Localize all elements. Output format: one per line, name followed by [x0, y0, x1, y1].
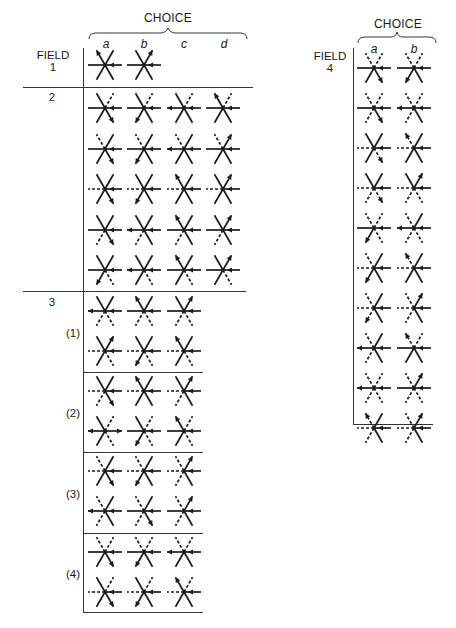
vector-glyph	[162, 369, 206, 413]
vector-glyph	[122, 489, 166, 533]
vector-glyph	[122, 167, 166, 211]
vector-glyph	[162, 530, 206, 574]
vector-glyph	[122, 329, 166, 373]
vector-glyph	[122, 43, 166, 87]
vector-glyph	[83, 489, 127, 533]
vector-glyph	[162, 86, 206, 130]
choice-title-right: CHOICE	[374, 17, 422, 31]
section-3-label: (3)	[66, 488, 80, 500]
vector-glyph	[352, 86, 396, 130]
field-header-right: FIELD 4	[305, 50, 355, 74]
field-4-label: 4	[305, 62, 355, 74]
vector-glyph	[392, 366, 436, 410]
section-1-label: (1)	[66, 327, 80, 339]
vector-glyph	[392, 86, 436, 130]
vector-glyph	[162, 167, 206, 211]
vector-glyph	[201, 167, 245, 211]
vector-glyph	[352, 46, 396, 90]
vector-glyph	[392, 126, 436, 170]
column-label-d: d	[214, 37, 234, 51]
vector-glyph	[83, 409, 127, 453]
vector-glyph	[83, 369, 127, 413]
field-2-label: 2	[40, 91, 64, 103]
vector-glyph	[83, 167, 127, 211]
vector-glyph	[162, 570, 206, 614]
vector-glyph	[392, 246, 436, 290]
vector-glyph	[122, 127, 166, 171]
vector-glyph	[122, 86, 166, 130]
vector-glyph	[83, 449, 127, 493]
vector-glyph	[201, 208, 245, 252]
field-3-label: 3	[40, 296, 64, 308]
vector-glyph	[83, 329, 127, 373]
vector-glyph	[162, 489, 206, 533]
vector-glyph	[162, 248, 206, 292]
vector-glyph	[352, 206, 396, 250]
vector-glyph	[122, 409, 166, 453]
vector-glyph	[392, 166, 436, 210]
vector-glyph	[352, 366, 396, 410]
vector-glyph	[392, 286, 436, 330]
column-label-c: c	[174, 37, 194, 51]
vector-glyph	[201, 86, 245, 130]
vector-glyph	[162, 289, 206, 333]
vector-glyph	[162, 127, 206, 171]
vector-glyph	[122, 530, 166, 574]
vector-glyph	[83, 570, 127, 614]
field-header-left: FIELD 1	[28, 49, 78, 73]
vector-glyph	[83, 43, 127, 87]
vector-glyph	[83, 289, 127, 333]
vector-glyph	[352, 286, 396, 330]
section-4-label: (4)	[66, 568, 80, 580]
field-header-text: FIELD	[28, 49, 78, 61]
vector-glyph	[162, 329, 206, 373]
vector-glyph	[352, 406, 396, 450]
vector-glyph	[122, 208, 166, 252]
vector-glyph	[201, 248, 245, 292]
vector-glyph	[162, 449, 206, 493]
vector-glyph	[392, 46, 436, 90]
vector-glyph	[122, 449, 166, 493]
field-1-label: 1	[28, 61, 78, 73]
vector-glyph	[83, 127, 127, 171]
vector-glyph	[83, 86, 127, 130]
vector-glyph	[122, 248, 166, 292]
choice-title-left: CHOICE	[144, 11, 192, 25]
vector-glyph	[122, 369, 166, 413]
vector-glyph	[352, 166, 396, 210]
vector-glyph	[392, 206, 436, 250]
vector-glyph	[392, 406, 436, 450]
vector-glyph	[352, 246, 396, 290]
vector-glyph	[83, 248, 127, 292]
vector-glyph	[352, 126, 396, 170]
section-2-label: (2)	[66, 407, 80, 419]
vector-glyph	[201, 127, 245, 171]
vector-glyph	[83, 530, 127, 574]
field-header-text-right: FIELD	[305, 50, 355, 62]
vector-glyph	[162, 208, 206, 252]
vector-glyph	[392, 326, 436, 370]
vector-glyph	[122, 570, 166, 614]
vector-glyph	[122, 289, 166, 333]
vector-glyph	[162, 409, 206, 453]
vector-glyph	[83, 208, 127, 252]
vector-glyph	[352, 326, 396, 370]
